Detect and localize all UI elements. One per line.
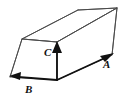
vector-label-a: A	[103, 59, 110, 70]
box-faces	[10, 8, 117, 80]
vector-box-figure: A B C	[0, 0, 130, 102]
vector-label-c: C	[44, 47, 51, 58]
vector-label-b: B	[25, 84, 32, 95]
box-diagram-svg	[0, 0, 130, 102]
